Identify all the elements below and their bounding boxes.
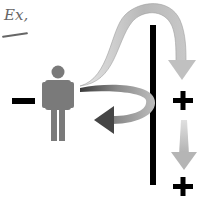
arrow-down-icon bbox=[171, 120, 197, 170]
minus-sign-icon bbox=[12, 98, 35, 104]
arrow-over-wall-icon bbox=[80, 4, 196, 86]
person-icon bbox=[42, 66, 74, 142]
arrow-bounce-back-icon bbox=[80, 85, 155, 134]
plus-sign-lower-icon bbox=[173, 177, 193, 196]
plus-sign-upper-icon bbox=[173, 91, 193, 110]
diagram-canvas bbox=[0, 0, 205, 202]
